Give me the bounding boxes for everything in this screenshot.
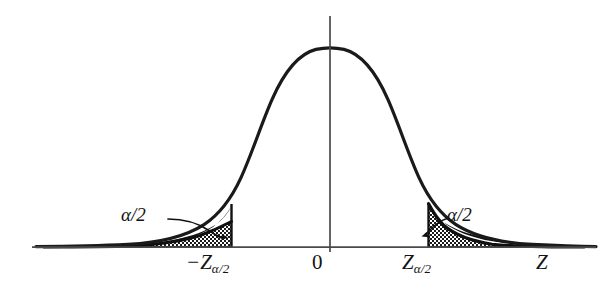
x-axis-label: Z <box>536 252 548 273</box>
critical-value-negative-base: −Z <box>186 250 212 274</box>
alpha-over-two-label-right: α/2 <box>447 205 472 224</box>
critical-value-positive-label: Zα/2 <box>402 252 431 275</box>
critical-value-positive-base: Z <box>402 250 414 274</box>
critical-value-negative-subscript: α/2 <box>212 261 230 276</box>
critical-value-positive-subscript: α/2 <box>414 261 432 276</box>
alpha-over-two-label-left: α/2 <box>121 205 146 224</box>
normal-distribution-figure: α/2 α/2 −Zα/2 0 Zα/2 Z <box>0 0 607 291</box>
critical-value-negative-label: −Zα/2 <box>186 252 229 275</box>
origin-tick-label: 0 <box>312 252 323 273</box>
bell-curve <box>36 48 596 247</box>
distribution-plot <box>0 0 607 291</box>
